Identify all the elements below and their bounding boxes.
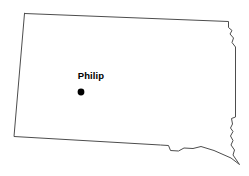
state-boundary-outline [14, 14, 240, 165]
state-map-container: Philip [0, 0, 249, 176]
city-label-philip: Philip [78, 70, 105, 81]
south-dakota-map-svg: Philip [0, 0, 249, 176]
city-marker-dot-philip[interactable] [78, 89, 85, 96]
